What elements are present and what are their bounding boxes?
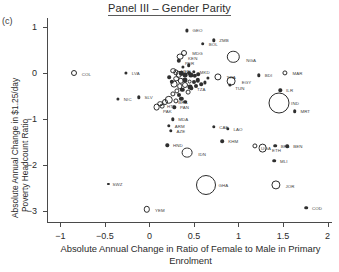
point-label-pak: PAK [163, 109, 172, 114]
point-label-aze: AZE [176, 128, 185, 133]
data-point-arm [167, 124, 170, 127]
data-point-bdi [257, 73, 260, 76]
data-point-bol [201, 42, 205, 46]
y-tick-label: −1 [27, 114, 37, 124]
point-label-yem: YEM [155, 208, 165, 213]
point-label-egy: EGY [242, 80, 252, 85]
data-point-ind [268, 93, 289, 114]
chart-figure: (c) Panel III – Gender Parity Absolute A… [0, 0, 339, 272]
point-label-hnd: HND [173, 143, 183, 148]
point-label-col: COL [82, 72, 91, 77]
data-point [167, 75, 171, 79]
x-tick-mark [194, 223, 195, 227]
y-axis-line [47, 18, 48, 223]
data-point-geo [185, 29, 188, 32]
point-label-eth: ETH [272, 147, 281, 152]
x-tick-mark [105, 223, 106, 227]
x-tick-label: 0 [147, 231, 152, 241]
point-label-tza: TZA [197, 87, 206, 92]
data-point-ben [286, 144, 290, 148]
data-point-lao [226, 127, 229, 130]
x-tick-label: 1.5 [277, 231, 290, 241]
chart-title: Panel III – Gender Parity [0, 2, 339, 14]
data-point-mar [282, 71, 287, 76]
point-label-lao: LAO [233, 126, 242, 131]
point-label-tun: TUN [235, 85, 244, 90]
data-point-aze [169, 129, 172, 132]
data-point-tha [214, 73, 221, 80]
y-axis-title: Absolute Annual Change in $1.25/day Pove… [1, 0, 31, 272]
data-point-yem [144, 206, 150, 212]
data-point-gha [196, 175, 216, 195]
point-label-zmb: ZMB [219, 38, 229, 43]
data-point [185, 89, 190, 94]
data-point-slv [137, 96, 140, 99]
data-point-mda [171, 118, 174, 121]
data-point-col [71, 70, 77, 76]
point-label-pan: PAN [180, 105, 189, 110]
data-point-hnd [166, 143, 169, 146]
data-point-nga [227, 50, 239, 62]
x-tick-mark [328, 223, 329, 227]
point-label-swz: SWZ [113, 181, 123, 186]
data-point [194, 84, 198, 88]
point-label-bdi: BDI [265, 73, 273, 78]
data-point [207, 76, 210, 79]
data-point-idn [181, 147, 192, 158]
data-point-nic [117, 97, 120, 100]
y-tick-mark [43, 211, 47, 212]
data-point [195, 78, 199, 82]
data-point-jor [271, 180, 280, 189]
data-point [197, 72, 201, 76]
point-label-khm: KHM [228, 139, 238, 144]
y-tick-mark [43, 119, 47, 120]
x-axis-line [47, 222, 332, 223]
data-point-mrt [293, 109, 297, 113]
data-point-bfa [273, 144, 277, 148]
plot-area: −1−0.500.511.52 10−1−2−3 GEOBOLZMBMDGKEN… [47, 18, 332, 223]
point-label-bol: BOL [209, 41, 218, 46]
y-tick-mark [43, 165, 47, 166]
data-point [159, 104, 164, 109]
y-tick-label: −2 [27, 160, 37, 170]
point-label-ilr: ILR [286, 88, 293, 93]
chart-title-text: Panel III – Gender Parity [108, 2, 231, 16]
x-tick-label: 2 [325, 231, 330, 241]
point-label-jor: JOR [285, 183, 294, 188]
y-axis-title-line1: Absolute Annual Change in $1.25/day [10, 78, 20, 218]
point-label-idn: IDN [198, 151, 206, 156]
point-label-mrt: MRT [300, 109, 310, 114]
point-label-lva: LVA [132, 70, 140, 75]
data-point-eth [258, 144, 267, 153]
y-tick-mark [43, 27, 47, 28]
x-tick-label: 0.5 [188, 231, 201, 241]
x-axis-title: Absolute Annual Change in Ratio of Femal… [46, 243, 335, 267]
y-tick-label: 1 [32, 22, 37, 32]
data-point-uga [252, 143, 257, 148]
data-point-lva [125, 71, 128, 74]
x-tick-label: −1 [55, 231, 65, 241]
data-point-cod [304, 206, 308, 210]
point-label-ben: BEN [293, 144, 302, 149]
point-label-nic: NIC [124, 96, 132, 101]
x-tick-mark [60, 223, 61, 227]
data-point [203, 81, 206, 84]
point-label-nga: NGA [246, 57, 256, 62]
data-point-caf [212, 125, 215, 128]
point-label-geo: GEO [192, 28, 202, 33]
data-point-ilr [279, 89, 282, 92]
point-label-mda: MDA [178, 117, 188, 122]
x-tick-mark [238, 223, 239, 227]
point-label-mar: MAR [292, 71, 302, 76]
point-label-mkd: MKD [200, 69, 210, 74]
data-point-per [177, 59, 181, 63]
data-point [170, 91, 175, 96]
data-point [187, 63, 191, 67]
data-point-tun [228, 83, 231, 86]
x-tick-label: −0.5 [96, 231, 114, 241]
x-tick-label: 1 [236, 231, 241, 241]
point-label-slv: SLV [144, 95, 152, 100]
data-point [180, 88, 184, 92]
x-tick-mark [149, 223, 150, 227]
y-tick-label: 0 [32, 68, 37, 78]
